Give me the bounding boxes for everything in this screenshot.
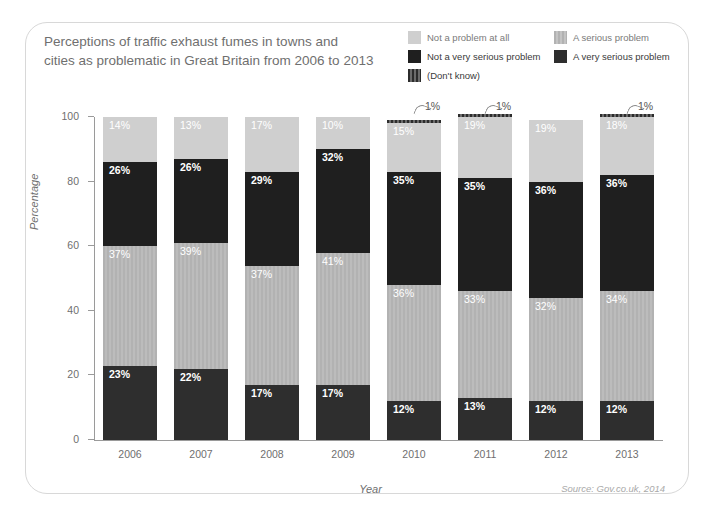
bar-segment-label: 32% — [322, 151, 343, 163]
bar-segment-not-a-very-serious-problem[interactable]: 36% — [529, 182, 583, 298]
legend-item-not-a-problem-at-all[interactable]: Not a problem at all — [408, 31, 554, 44]
bar-segment-label: 14% — [109, 119, 130, 131]
bar-segment-label: 35% — [393, 174, 414, 186]
x-tick-label-2008: 2008 — [245, 448, 299, 460]
y-tick: 80 — [88, 181, 94, 182]
bar-segment-label: 33% — [464, 293, 485, 305]
bar-segment-not-a-very-serious-problem[interactable]: 36% — [600, 175, 654, 291]
legend-row: Not a problem at allA serious problem — [408, 31, 688, 44]
bar-segment-not-a-problem-at-all[interactable]: 19% — [458, 117, 512, 178]
x-tick-label-2006: 2006 — [103, 448, 157, 460]
legend-row: Not a very serious problemA very serious… — [408, 50, 688, 63]
bar-segment-don-t-know[interactable] — [387, 120, 441, 123]
legend-swatch-icon — [408, 31, 421, 44]
bar-segment-label: 13% — [464, 400, 485, 412]
x-tick-label-2011: 2011 — [458, 448, 512, 460]
bar-segment-not-a-very-serious-problem[interactable]: 26% — [174, 159, 228, 243]
bar-2012[interactable]: 12%32%36%19% — [529, 117, 583, 440]
legend-item-label: (Don't know) — [427, 69, 480, 82]
bar-segment-a-serious-problem[interactable]: 41% — [316, 253, 370, 385]
bar-segment-label: 37% — [109, 248, 130, 260]
plot-area: 02040608010023%37%26%14%22%39%26%13%17%3… — [94, 117, 662, 440]
bar-segment-a-very-serious-problem[interactable]: 23% — [103, 366, 157, 440]
bar-segment-label: 12% — [606, 403, 627, 415]
bar-segment-label: 39% — [180, 245, 201, 257]
bar-segment-not-a-very-serious-problem[interactable]: 32% — [316, 149, 370, 252]
bar-2006[interactable]: 23%37%26%14% — [103, 117, 157, 440]
y-tick: 100 — [88, 116, 94, 117]
bar-segment-label: 19% — [464, 119, 485, 131]
bar-segment-a-serious-problem[interactable]: 39% — [174, 243, 228, 369]
x-tick-label-2007: 2007 — [174, 448, 228, 460]
y-tick-label: 40 — [67, 304, 79, 316]
legend-swatch-icon — [408, 69, 421, 82]
bar-segment-label: 10% — [322, 119, 343, 131]
bar-segment-a-serious-problem[interactable]: 32% — [529, 298, 583, 401]
bar-segment-label: 19% — [535, 122, 556, 134]
x-axis-label-text: Year — [359, 483, 382, 495]
bar-segment-label: 12% — [535, 403, 556, 415]
bar-segment-label: 32% — [535, 300, 556, 312]
y-tick-label: 20 — [67, 368, 79, 380]
bar-segment-label: 26% — [109, 164, 130, 176]
bar-segment-not-a-problem-at-all[interactable]: 17% — [245, 117, 299, 172]
page-title: Perceptions of traffic exhaust fumes in … — [44, 32, 394, 70]
y-tick-label: 100 — [61, 110, 79, 122]
legend-item-a-serious-problem[interactable]: A serious problem — [554, 31, 688, 44]
bar-2010[interactable]: 12%36%35%15% — [387, 117, 441, 440]
bar-segment-not-a-very-serious-problem[interactable]: 35% — [387, 172, 441, 285]
y-tick-label: 60 — [67, 239, 79, 251]
bar-segment-a-very-serious-problem[interactable]: 12% — [387, 401, 441, 440]
bar-segment-a-serious-problem[interactable]: 36% — [387, 285, 441, 401]
bar-segment-not-a-problem-at-all[interactable]: 18% — [600, 117, 654, 175]
x-tick-label-2010: 2010 — [387, 448, 441, 460]
bar-2008[interactable]: 17%37%29%17% — [245, 117, 299, 440]
bar-segment-not-a-very-serious-problem[interactable]: 35% — [458, 178, 512, 291]
legend-item-label: A serious problem — [573, 31, 649, 44]
bar-segment-a-very-serious-problem[interactable]: 17% — [316, 385, 370, 440]
bar-segment-label: 29% — [251, 174, 272, 186]
bar-segment-a-serious-problem[interactable]: 34% — [600, 291, 654, 401]
legend-item-label: Not a very serious problem — [427, 50, 541, 63]
bar-segment-not-a-very-serious-problem[interactable]: 29% — [245, 172, 299, 266]
bar-segment-label: 18% — [606, 119, 627, 131]
bar-segment-a-serious-problem[interactable]: 37% — [103, 246, 157, 366]
bar-segment-a-serious-problem[interactable]: 33% — [458, 291, 512, 398]
bar-segment-not-a-problem-at-all[interactable]: 13% — [174, 117, 228, 159]
legend-row: (Don't know) — [408, 69, 688, 82]
bar-segment-a-very-serious-problem[interactable]: 13% — [458, 398, 512, 440]
bar-segment-a-very-serious-problem[interactable]: 12% — [529, 401, 583, 440]
bar-segment-label: 36% — [393, 287, 414, 299]
bar-segment-a-very-serious-problem[interactable]: 12% — [600, 401, 654, 440]
y-tick-label: 0 — [73, 433, 79, 445]
y-tick: 60 — [88, 245, 94, 246]
bar-2011[interactable]: 13%33%35%19% — [458, 117, 512, 440]
page-title-line-1: Perceptions of traffic exhaust fumes in … — [44, 34, 338, 49]
bar-2013[interactable]: 12%34%36%18% — [600, 117, 654, 440]
bar-segment-label: 36% — [535, 184, 556, 196]
legend-item-a-very-serious-problem[interactable]: A very serious problem — [554, 50, 688, 63]
bar-segment-label: 34% — [606, 293, 627, 305]
legend-item-not-a-very-serious-problem[interactable]: Not a very serious problem — [408, 50, 554, 63]
bar-segment-not-a-problem-at-all[interactable]: 15% — [387, 123, 441, 171]
x-tick-label-2009: 2009 — [316, 448, 370, 460]
bar-segment-a-very-serious-problem[interactable]: 22% — [174, 369, 228, 440]
bar-segment-label: 17% — [251, 119, 272, 131]
bar-segment-not-a-problem-at-all[interactable]: 19% — [529, 120, 583, 181]
y-tick: 0 — [88, 439, 94, 440]
legend-item-don-t-know[interactable]: (Don't know) — [408, 69, 554, 82]
bar-segment-not-a-problem-at-all[interactable]: 14% — [103, 117, 157, 162]
bar-segment-not-a-problem-at-all[interactable]: 10% — [316, 117, 370, 149]
bar-2007[interactable]: 22%39%26%13% — [174, 117, 228, 440]
bar-segment-label: 12% — [393, 403, 414, 415]
bar-segment-a-serious-problem[interactable]: 37% — [245, 266, 299, 386]
legend-swatch-icon — [554, 50, 567, 63]
bar-segment-a-very-serious-problem[interactable]: 17% — [245, 385, 299, 440]
bar-segment-not-a-very-serious-problem[interactable]: 26% — [103, 162, 157, 246]
y-axis-label: Percentage — [28, 174, 40, 230]
bar-2009[interactable]: 17%41%32%10% — [316, 117, 370, 440]
bar-segment-label: 26% — [180, 161, 201, 173]
bar-segment-label: 15% — [393, 125, 414, 137]
chart-legend: Not a problem at allA serious problemNot… — [408, 31, 688, 88]
bar-segment-label: 23% — [109, 368, 130, 380]
